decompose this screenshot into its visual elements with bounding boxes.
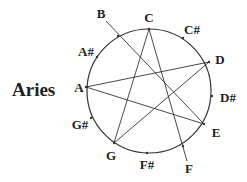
note-point-csharp <box>182 37 184 39</box>
note-label-f: F <box>185 161 193 176</box>
note-label-asharp: A# <box>78 44 94 59</box>
line-c-f <box>149 29 187 161</box>
line-c-g <box>114 29 149 143</box>
note-point-d <box>208 61 210 63</box>
note-point-e <box>203 123 205 125</box>
note-label-csharp: C# <box>184 22 200 37</box>
note-labels: CC#DD#EFF#GG#AA#B <box>72 6 237 176</box>
aries-note-circle-diagram: Aries CC#DD#EFF#GG#AA#B <box>0 0 247 182</box>
note-label-b: B <box>97 6 106 21</box>
note-point-fsharp <box>146 152 148 154</box>
diagram-title: Aries <box>12 79 55 100</box>
note-point-gsharp <box>90 117 92 119</box>
note-label-d: D <box>215 52 224 67</box>
note-label-gsharp: G# <box>72 117 89 132</box>
note-label-c: C <box>144 10 153 25</box>
note-label-fsharp: F# <box>140 157 155 172</box>
note-point-f <box>182 145 184 147</box>
note-point-a <box>85 86 87 88</box>
note-circle <box>87 29 211 153</box>
note-point-g <box>113 142 115 144</box>
note-ticks <box>85 28 213 154</box>
note-label-a: A <box>74 80 84 95</box>
note-point-b <box>117 35 119 37</box>
line-a-d <box>86 62 209 87</box>
note-label-e: E <box>212 125 221 140</box>
note-label-dsharp: D# <box>220 90 236 105</box>
note-point-c <box>148 28 150 30</box>
note-point-dsharp <box>211 95 213 97</box>
note-point-asharp <box>96 56 98 58</box>
line-d-g <box>114 62 209 143</box>
note-label-g: G <box>106 148 116 163</box>
connection-lines <box>86 21 209 161</box>
